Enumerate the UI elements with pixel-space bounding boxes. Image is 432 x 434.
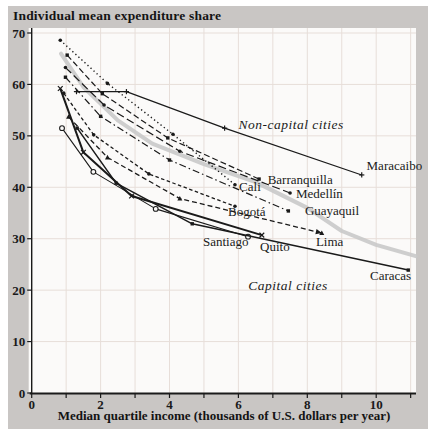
series-label-guayaquil: Guayaquil [305, 203, 360, 218]
annotation-label-0: Non-capital cities [237, 117, 343, 132]
marker-circle [178, 149, 182, 153]
y-tick-label: 60 [12, 77, 25, 92]
marker-square [101, 92, 104, 95]
y-tick-label: 30 [12, 231, 25, 246]
marker-circle [171, 133, 175, 137]
marker-open-circle [153, 206, 158, 211]
y-tick-label: 40 [12, 180, 25, 195]
marker-circle [64, 66, 68, 70]
y-tick-label: 0 [19, 386, 26, 401]
series-label-medellin: Medellín [296, 186, 343, 201]
series-label-maracaibo: Maracaibo [367, 158, 423, 173]
marker-square [166, 136, 169, 139]
marker-square [191, 222, 194, 225]
chart-canvas: 0102030405060700246810MaracaiboBarranqui… [0, 0, 432, 434]
marker-circle [233, 183, 237, 187]
marker-square [114, 181, 117, 184]
series-label-lima: Lima [316, 234, 344, 249]
y-tick-label: 10 [12, 334, 25, 349]
marker-circle [102, 103, 106, 107]
marker-square [168, 158, 171, 161]
series-label-cali: Cali [239, 179, 261, 194]
marker-circle [106, 82, 110, 86]
y-tick-label: 50 [12, 128, 25, 143]
marker-open-circle [91, 169, 96, 174]
marker-circle [58, 38, 62, 42]
figure-page: Individual mean expenditure share 010203… [0, 0, 432, 434]
marker-circle [92, 133, 96, 137]
annotation-label-1: Capital cities [248, 278, 327, 293]
marker-circle [288, 191, 292, 195]
y-tick-label: 70 [12, 26, 25, 41]
marker-square [287, 209, 290, 212]
marker-circle [147, 172, 151, 176]
x-axis-caption: Median quartile income (thousands of U.S… [26, 408, 422, 424]
marker-square [64, 76, 67, 79]
marker-square [65, 53, 68, 56]
y-tick-label: 20 [12, 283, 25, 298]
marker-square [99, 115, 102, 118]
series-label-caracas: Caracas [370, 268, 411, 283]
series-label-santiago: Santiago [203, 234, 249, 249]
marker-square [75, 126, 78, 129]
marker-open-circle [60, 126, 65, 131]
